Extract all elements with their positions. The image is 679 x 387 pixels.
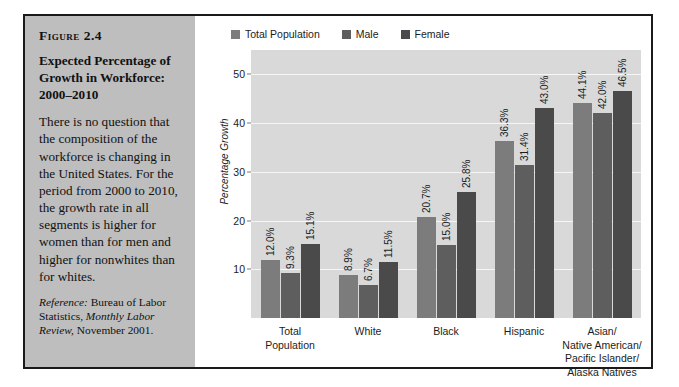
bar-value-label: 12.0%	[265, 227, 276, 255]
bar-value-label: 25.8%	[461, 160, 472, 188]
x-label-line: Pacific Islander/	[549, 352, 655, 366]
x-label-line: Asian/	[549, 325, 655, 339]
bar[interactable]: 6.7%	[359, 285, 378, 318]
y-tick-label: 10	[233, 263, 245, 275]
y-tick-label: 40	[233, 117, 245, 129]
figure-number: Figure 2.4	[39, 28, 182, 44]
x-label-line: Native American/	[549, 339, 655, 353]
y-tick-label: 20	[233, 215, 245, 227]
chart-area: Total PopulationMaleFemale Percentage Gr…	[195, 16, 651, 367]
legend-label: Female	[415, 28, 450, 40]
bar-group: 44.1%42.0%46.5%	[563, 50, 641, 318]
bar-value-label: 31.4%	[519, 133, 530, 161]
plot-area: 12.0%9.3%15.1%8.9%6.7%11.5%20.7%15.0%25.…	[251, 50, 641, 318]
x-axis-category-label: Asian/Native American/Pacific Islander/A…	[549, 325, 655, 380]
bar-value-label: 20.7%	[421, 185, 432, 213]
bar[interactable]: 15.1%	[301, 244, 320, 318]
legend-item-female[interactable]: Female	[401, 28, 450, 40]
bar[interactable]: 44.1%	[573, 103, 592, 318]
caption-panel: Figure 2.4 Expected Percentage of Growth…	[25, 16, 195, 367]
bar[interactable]: 12.0%	[261, 260, 280, 318]
bar-value-label: 9.3%	[285, 246, 296, 269]
reference-text-part2: November 2001.	[74, 324, 153, 336]
plot-wrapper: 12.0%9.3%15.1%8.9%6.7%11.5%20.7%15.0%25.…	[251, 50, 641, 318]
bar[interactable]: 25.8%	[457, 192, 476, 318]
legend-item-total-population[interactable]: Total Population	[231, 28, 320, 40]
legend-label: Total Population	[245, 28, 320, 40]
y-tick-mark	[247, 123, 251, 124]
legend-swatch-icon	[401, 30, 410, 39]
y-tick-mark	[247, 171, 251, 172]
bar[interactable]: 36.3%	[495, 141, 514, 318]
bar[interactable]: 42.0%	[593, 113, 612, 318]
bar[interactable]: 43.0%	[535, 108, 554, 318]
bar[interactable]: 9.3%	[281, 273, 300, 318]
bar-value-label: 44.1%	[577, 71, 588, 99]
legend-item-male[interactable]: Male	[342, 28, 379, 40]
bar-value-label: 15.0%	[441, 213, 452, 241]
bar-value-label: 8.9%	[343, 248, 354, 271]
y-axis-title: Percentage Growth	[219, 87, 230, 237]
bar[interactable]: 11.5%	[379, 262, 398, 318]
figure-reference: Reference: Bureau of Labor Statistics, M…	[39, 295, 182, 337]
bar-value-label: 43.0%	[539, 76, 550, 104]
x-axis-labels: TotalPopulationWhiteBlackHispanicAsian/N…	[251, 322, 641, 387]
bar-value-label: 6.7%	[363, 259, 374, 282]
chart-legend: Total PopulationMaleFemale	[231, 28, 472, 40]
bar-group: 36.3%31.4%43.0%	[485, 50, 563, 318]
bar-value-label: 36.3%	[499, 109, 510, 137]
reference-label: Reference:	[39, 296, 88, 308]
legend-swatch-icon	[342, 30, 351, 39]
figure-body-text: There is no question that the compositio…	[39, 113, 182, 285]
bar-group: 20.7%15.0%25.8%	[407, 50, 485, 318]
legend-swatch-icon	[231, 30, 240, 39]
bar-value-label: 42.0%	[597, 81, 608, 109]
bar-value-label: 11.5%	[383, 230, 394, 258]
x-label-line: Alaska Natives	[549, 366, 655, 380]
y-tick-mark	[247, 269, 251, 270]
y-tick-label: 50	[233, 68, 245, 80]
bar-value-label: 15.1%	[305, 212, 316, 240]
bar[interactable]: 46.5%	[613, 91, 632, 318]
y-tick-mark	[247, 220, 251, 221]
bar[interactable]: 8.9%	[339, 275, 358, 318]
bar-value-label: 46.5%	[617, 59, 628, 87]
bar-group: 12.0%9.3%15.1%	[251, 50, 329, 318]
x-label-line: Population	[237, 339, 343, 353]
legend-label: Male	[356, 28, 379, 40]
bar-group: 8.9%6.7%11.5%	[329, 50, 407, 318]
bar[interactable]: 31.4%	[515, 165, 534, 318]
y-tick-label: 30	[233, 166, 245, 178]
figure-title: Expected Percentage of Growth in Workfor…	[39, 53, 182, 103]
y-tick-mark	[247, 74, 251, 75]
figure-frame: Figure 2.4 Expected Percentage of Growth…	[23, 14, 653, 369]
bar[interactable]: 20.7%	[417, 217, 436, 318]
bar[interactable]: 15.0%	[437, 245, 456, 318]
